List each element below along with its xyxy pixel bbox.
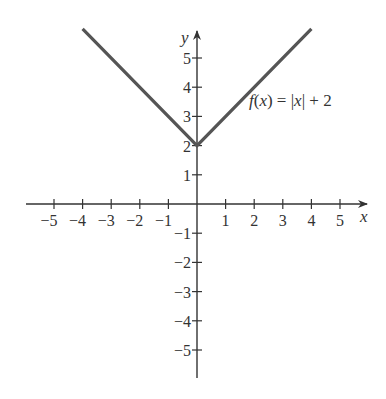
function-label: f(x) = |x| + 2 <box>249 91 332 110</box>
coordinate-plane: −5−4−3−2−112345 −5−4−3−2−112345 x y f(x)… <box>0 0 386 399</box>
x-tick-label: −1 <box>155 212 172 229</box>
y-tick-label: 5 <box>183 50 191 67</box>
y-tick-label: −2 <box>174 254 191 271</box>
x-tick-label: −2 <box>126 212 143 229</box>
y-axis-label: y <box>179 28 189 47</box>
x-tick-label: 3 <box>279 212 287 229</box>
x-tick-label: −5 <box>40 212 57 229</box>
x-tick-label: 2 <box>250 212 258 229</box>
x-tick-label: 5 <box>336 212 344 229</box>
y-tick-label: 3 <box>183 108 191 125</box>
x-axis-label: x <box>359 207 368 226</box>
x-tick-label: −3 <box>98 212 115 229</box>
y-tick-label: 1 <box>183 167 191 184</box>
x-tick-label: 4 <box>307 212 315 229</box>
y-tick-label: −5 <box>174 342 191 359</box>
y-tick-label: −4 <box>174 313 191 330</box>
x-tick-label: 1 <box>222 212 230 229</box>
y-tick-label: −1 <box>174 225 191 242</box>
y-tick-label: −3 <box>174 284 191 301</box>
y-tick-label: 4 <box>183 79 191 96</box>
x-tick-label: −4 <box>69 212 86 229</box>
